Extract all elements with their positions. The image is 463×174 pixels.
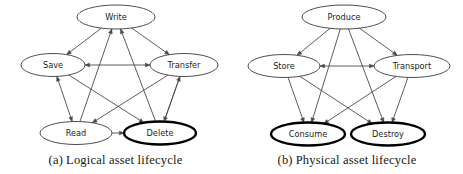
node-transport[interactable]: Transport (374, 55, 450, 78)
edge-delete-to-write (120, 29, 155, 122)
node-label-save: Save (43, 60, 63, 70)
node-destroy[interactable]: Destroy (351, 123, 425, 146)
node-delete[interactable]: Delete (124, 122, 196, 145)
edge-produce-to-transport (359, 28, 397, 55)
edge-produce-to-destroy (348, 29, 383, 123)
node-layer: ProduceStoreTransportConsumeDestroy (248, 5, 450, 146)
edge-store-to-consume (288, 77, 304, 122)
edge-layer (288, 28, 408, 123)
edge-save-to-transfer (85, 63, 150, 67)
edge-save-to-read (56, 76, 72, 121)
node-layer: WriteSaveTransferReadDelete (21, 5, 218, 145)
node-read[interactable]: Read (40, 122, 112, 145)
node-produce[interactable]: Produce (302, 5, 386, 29)
edge-write-to-transfer (132, 28, 170, 55)
edge-produce-to-store (297, 28, 330, 55)
edge-save-to-delete (69, 75, 144, 123)
node-label-write: Write (105, 12, 127, 22)
caption-label-b: (b) (278, 153, 293, 167)
edge-write-to-save (67, 28, 102, 54)
figure-row: WriteSaveTransferReadDelete (a)Logical a… (0, 0, 463, 174)
node-consume[interactable]: Consume (271, 123, 345, 146)
edge-transport-to-consume (324, 76, 396, 123)
edge-layer (56, 28, 180, 135)
physical-asset-lifecycle-diagram: ProduceStoreTransportConsumeDestroy (231, 0, 463, 150)
edge-delete-to-transfer (164, 76, 180, 121)
node-label-store: Store (273, 61, 295, 71)
edge-store-to-destroy (300, 76, 372, 123)
edge-read-to-delete (112, 131, 124, 135)
edge-transfer-to-read (92, 75, 168, 123)
node-label-produce: Produce (328, 12, 361, 22)
edge-transport-to-destroy (392, 77, 408, 122)
caption-text-a: Logical asset lifecycle (66, 153, 182, 167)
figure-panel-logical: WriteSaveTransferReadDelete (a)Logical a… (0, 0, 231, 174)
node-label-read: Read (66, 128, 87, 138)
node-save[interactable]: Save (21, 54, 85, 77)
logical-asset-lifecycle-diagram: WriteSaveTransferReadDelete (0, 0, 231, 150)
node-label-destroy: Destroy (372, 129, 404, 139)
node-label-delete: Delete (147, 128, 174, 138)
edge-read-to-write (80, 29, 112, 122)
node-label-transfer: Transfer (167, 60, 202, 70)
figure-caption-logical: (a)Logical asset lifecycle (0, 153, 231, 168)
caption-text-b: Physical asset lifecycle (296, 153, 417, 167)
edge-produce-to-consume (311, 29, 340, 123)
figure-panel-physical: ProduceStoreTransportConsumeDestroy (b)P… (231, 0, 463, 174)
node-transfer[interactable]: Transfer (150, 54, 218, 77)
figure-caption-physical: (b)Physical asset lifecycle (231, 153, 463, 168)
node-write[interactable]: Write (77, 5, 155, 29)
node-store[interactable]: Store (248, 55, 320, 78)
node-label-consume: Consume (289, 129, 327, 139)
node-label-transport: Transport (392, 61, 432, 71)
caption-label-a: (a) (49, 153, 63, 167)
